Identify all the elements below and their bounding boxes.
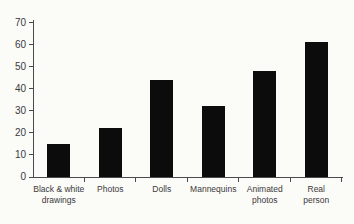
x-axis-line — [33, 177, 343, 178]
category-label: Dolls — [133, 184, 191, 195]
bar — [150, 80, 173, 177]
x-axis-tick — [84, 178, 85, 182]
category-label: Animated photos — [236, 184, 294, 205]
bar-chart: 010203040506070Black & white drawingsPho… — [0, 0, 354, 224]
x-axis-tick — [341, 178, 342, 182]
category-label: Black & white drawings — [30, 184, 88, 205]
bar — [305, 42, 328, 177]
y-axis-tick — [29, 154, 33, 155]
x-axis-tick — [187, 178, 188, 182]
bar — [99, 128, 122, 177]
y-axis-line — [33, 20, 34, 178]
y-axis-tick-label: 40 — [0, 83, 26, 95]
y-axis-tick-label: 20 — [0, 127, 26, 139]
x-axis-tick — [238, 178, 239, 182]
y-axis-tick — [29, 44, 33, 45]
y-axis-tick — [29, 177, 33, 178]
bar — [202, 106, 225, 177]
x-axis-tick — [290, 178, 291, 182]
bar — [47, 144, 70, 177]
y-axis-tick — [29, 132, 33, 133]
y-axis-tick-label: 70 — [0, 17, 26, 29]
bar — [253, 71, 276, 177]
category-label: Mannequins — [184, 184, 242, 195]
y-axis-tick-label: 30 — [0, 105, 26, 117]
y-axis-tick — [29, 22, 33, 23]
y-axis-tick — [29, 110, 33, 111]
y-axis-tick — [29, 66, 33, 67]
category-label: Real person — [287, 184, 345, 205]
y-axis-tick-label: 50 — [0, 61, 26, 73]
category-label: Photos — [81, 184, 139, 195]
y-axis-tick-label: 60 — [0, 39, 26, 51]
y-axis-tick-label: 10 — [0, 149, 26, 161]
y-axis-tick-label: 0 — [0, 171, 26, 183]
x-axis-tick — [135, 178, 136, 182]
y-axis-tick — [29, 88, 33, 89]
